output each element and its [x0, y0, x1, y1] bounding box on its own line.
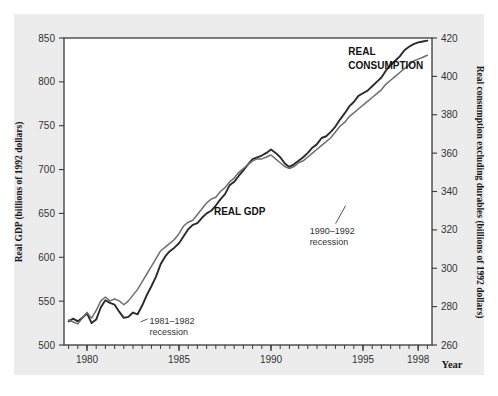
plot-area — [64, 38, 432, 345]
annotation-1990-line2: recession — [310, 237, 349, 247]
x-tick-label: 1980 — [76, 354, 99, 365]
annotation-1990-line1: 1990–1992 — [310, 226, 355, 236]
chart-canvas: 500550600650700750800850 260280300320340… — [0, 0, 498, 396]
right-tick-label: 340 — [441, 186, 458, 197]
right-axis-title: Real consumption excluding durables (bil… — [474, 66, 485, 319]
right-axis-ticks: 260280300320340360380400420 — [432, 33, 458, 351]
series-label-real-consumption-line2: CONSUMPTION — [348, 60, 423, 71]
left-tick-label: 850 — [38, 33, 55, 44]
left-axis-ticks: 500550600650700750800850 — [38, 33, 64, 351]
left-tick-label: 800 — [38, 76, 55, 87]
series-label-real-consumption: REAL — [348, 46, 375, 57]
left-tick-label: 500 — [38, 340, 55, 351]
right-tick-label: 420 — [441, 33, 458, 44]
x-tick-label: 1985 — [168, 354, 191, 365]
x-tick-label: 1998 — [407, 354, 430, 365]
series-label-real-gdp: REAL GDP — [214, 206, 266, 217]
right-tick-label: 320 — [441, 224, 458, 235]
annotation-1981-line1: 1981–1982 — [150, 316, 195, 326]
right-tick-label: 400 — [441, 71, 458, 82]
left-tick-label: 650 — [38, 208, 55, 219]
x-tick-label: 1995 — [352, 354, 375, 365]
left-tick-label: 750 — [38, 120, 55, 131]
x-tick-label: 1990 — [260, 354, 283, 365]
right-tick-label: 280 — [441, 301, 458, 312]
chart-svg: 500550600650700750800850 260280300320340… — [0, 0, 498, 396]
left-tick-label: 700 — [38, 164, 55, 175]
annotation-1981-line2: recession — [150, 327, 189, 337]
plot-frame — [64, 38, 432, 345]
right-tick-label: 260 — [441, 340, 458, 351]
chart-figure: 500550600650700750800850 260280300320340… — [0, 0, 498, 396]
left-tick-label: 550 — [38, 296, 55, 307]
x-axis-title: Year — [442, 359, 463, 370]
x-axis-ticks: 19801985199019951998 — [69, 345, 430, 365]
right-tick-label: 360 — [441, 148, 458, 159]
left-axis-title: Real GDP (billions of 1992 dollars) — [14, 122, 25, 263]
right-tick-label: 380 — [441, 109, 458, 120]
right-tick-label: 300 — [441, 263, 458, 274]
left-tick-label: 600 — [38, 252, 55, 263]
